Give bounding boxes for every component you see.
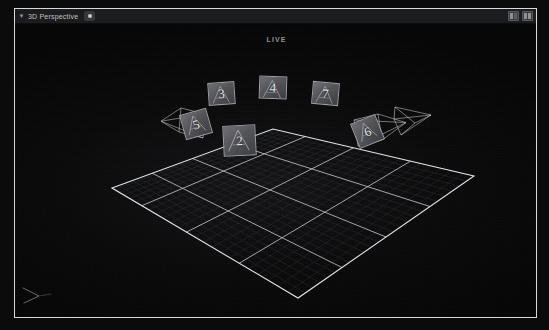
app-root: ▼ 3D Perspective LIVE 534762 xyxy=(0,0,549,330)
camera-image-plane[interactable]: 3 xyxy=(205,79,239,109)
camera-image-plane[interactable]: 2 xyxy=(220,122,260,160)
image-plane-thumbnail: 4 xyxy=(259,76,288,100)
camera-index-label: 3 xyxy=(218,87,225,100)
image-plane-thumbnail: 7 xyxy=(311,81,340,106)
camera-lens-dot xyxy=(88,14,92,18)
chevron-down-icon[interactable]: ▼ xyxy=(17,10,26,23)
viewport-frame[interactable]: ▼ 3D Perspective LIVE 534762 xyxy=(14,8,537,318)
camera-image-plane[interactable]: 6 xyxy=(352,110,402,152)
image-plane-thumbnail: 6 xyxy=(350,114,385,149)
axis-gizmo-icon xyxy=(21,282,55,312)
camera-icon[interactable] xyxy=(84,11,95,21)
viewport-title: 3D Perspective xyxy=(28,13,78,20)
split-layout-icon[interactable] xyxy=(522,11,533,21)
viewport-titlebar: ▼ 3D Perspective xyxy=(15,9,536,24)
image-plane-thumbnail: 5 xyxy=(179,108,213,141)
camera-index-label: 2 xyxy=(236,134,243,147)
image-plane-thumbnail: 3 xyxy=(207,81,236,106)
camera-image-plane[interactable]: 4 xyxy=(256,73,290,103)
camera-index-label: 7 xyxy=(322,87,330,101)
camera-image-plane[interactable]: 7 xyxy=(309,79,343,109)
panel-layout-icon[interactable] xyxy=(508,11,519,21)
3d-scene-canvas[interactable]: LIVE 534762 xyxy=(15,24,537,318)
camera-frustums xyxy=(15,24,537,318)
camera-index-label: 4 xyxy=(270,81,277,94)
image-plane-thumbnail: 2 xyxy=(222,124,257,157)
live-status-label: LIVE xyxy=(15,36,537,43)
